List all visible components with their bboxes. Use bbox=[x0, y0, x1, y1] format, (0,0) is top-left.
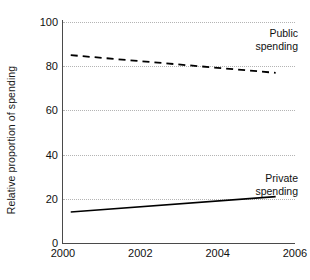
public-label-line2: spending bbox=[255, 40, 298, 53]
series-line-public-spending bbox=[71, 55, 276, 73]
series-line-private-spending bbox=[71, 197, 276, 212]
public-label-line1: Public bbox=[255, 27, 298, 40]
series-label-public-spending: Public spending bbox=[255, 27, 298, 53]
series-label-private-spending: Private spending bbox=[255, 172, 298, 198]
private-label-line1: Private bbox=[255, 172, 298, 185]
line-chart: Relative proportion of spending 10080604… bbox=[0, 0, 310, 280]
private-label-line2: spending bbox=[255, 185, 298, 198]
